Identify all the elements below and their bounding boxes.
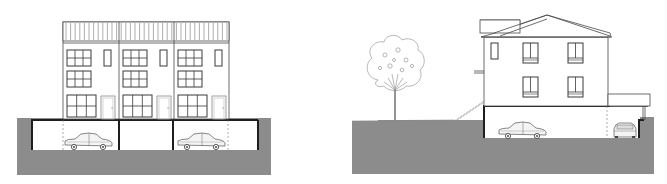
window-casement [523, 77, 538, 97]
window-casement [523, 43, 538, 63]
house-elevation [352, 15, 654, 174]
window-narrow [160, 50, 167, 66]
townhouse-units [67, 50, 226, 119]
house-facade [484, 37, 608, 106]
car-rear-icon [614, 123, 636, 138]
door-knob [222, 107, 223, 108]
townhouses-elevation [17, 22, 271, 175]
window-narrow [491, 43, 498, 59]
tree-icon [367, 35, 424, 120]
door-knob [111, 107, 112, 108]
window-narrow [215, 50, 222, 66]
window-casement [568, 77, 583, 97]
door-knob [167, 107, 168, 108]
exterior-stair [455, 102, 484, 120]
window-casement [568, 43, 583, 63]
elevation-drawings [0, 0, 667, 184]
carport-roof [608, 94, 650, 106]
window-narrow [104, 50, 111, 66]
